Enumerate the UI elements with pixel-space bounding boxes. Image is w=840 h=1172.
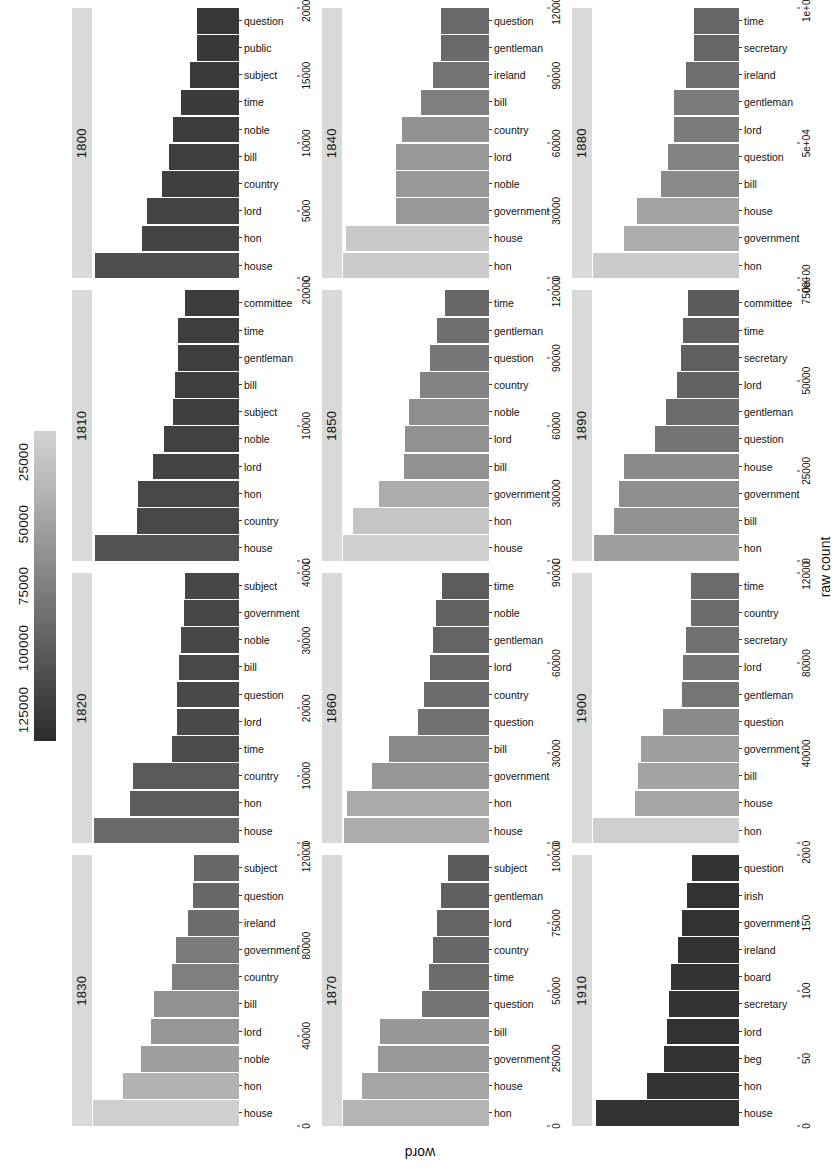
bar[interactable] (421, 90, 489, 116)
bar[interactable] (178, 318, 239, 344)
bar[interactable] (674, 117, 739, 143)
bar[interactable] (594, 535, 739, 561)
bar[interactable] (433, 627, 489, 653)
bar[interactable] (173, 399, 239, 425)
bar[interactable] (197, 35, 239, 61)
bar[interactable] (153, 454, 239, 480)
bar[interactable] (668, 144, 739, 170)
bar[interactable] (687, 883, 739, 909)
bar[interactable] (184, 600, 239, 626)
bar[interactable] (379, 481, 489, 507)
bar[interactable] (404, 454, 489, 480)
bar[interactable] (378, 1046, 489, 1072)
bar[interactable] (593, 253, 739, 279)
bar[interactable] (638, 763, 739, 789)
bar[interactable] (172, 736, 239, 762)
bar[interactable] (141, 1046, 239, 1072)
bar[interactable] (193, 883, 239, 909)
bar[interactable] (190, 62, 239, 88)
bar[interactable] (396, 198, 489, 224)
bar[interactable] (396, 171, 489, 197)
bar[interactable] (429, 964, 489, 990)
bar[interactable] (362, 1073, 489, 1099)
bar[interactable] (641, 736, 739, 762)
bar[interactable] (686, 62, 739, 88)
bar[interactable] (142, 226, 239, 252)
bar[interactable] (95, 535, 239, 561)
bar[interactable] (347, 791, 489, 817)
bar[interactable] (173, 117, 239, 143)
bar[interactable] (172, 964, 239, 990)
bar[interactable] (343, 1100, 489, 1126)
bar[interactable] (441, 8, 489, 34)
bar[interactable] (635, 791, 740, 817)
bar[interactable] (396, 144, 489, 170)
bar[interactable] (664, 1046, 739, 1072)
bar[interactable] (123, 1073, 239, 1099)
bar[interactable] (389, 736, 489, 762)
bar[interactable] (691, 600, 739, 626)
bar[interactable] (666, 399, 740, 425)
bar[interactable] (691, 573, 739, 599)
bar[interactable] (175, 372, 239, 398)
bar[interactable] (682, 910, 739, 936)
bar[interactable] (343, 535, 489, 561)
bar[interactable] (178, 345, 239, 371)
bar[interactable] (346, 226, 489, 252)
bar[interactable] (433, 62, 489, 88)
bar[interactable] (176, 937, 239, 963)
bar[interactable] (682, 682, 739, 708)
bar[interactable] (437, 910, 489, 936)
bar[interactable] (667, 1019, 739, 1045)
bar[interactable] (181, 90, 239, 116)
bar[interactable] (437, 318, 489, 344)
bar[interactable] (164, 426, 239, 452)
bar[interactable] (177, 709, 239, 735)
bar[interactable] (353, 508, 489, 534)
bar[interactable] (663, 709, 739, 735)
bar[interactable] (151, 1019, 239, 1045)
bar[interactable] (674, 90, 739, 116)
bar[interactable] (448, 855, 489, 881)
bar[interactable] (181, 627, 239, 653)
bar[interactable] (647, 1073, 739, 1099)
bar[interactable] (93, 1100, 239, 1126)
bar[interactable] (137, 508, 239, 534)
bar[interactable] (430, 655, 489, 681)
bar[interactable] (694, 35, 739, 61)
bar[interactable] (683, 655, 739, 681)
bar[interactable] (637, 198, 739, 224)
bar[interactable] (441, 35, 489, 61)
bar[interactable] (402, 117, 489, 143)
bar[interactable] (409, 399, 489, 425)
bar[interactable] (436, 600, 489, 626)
bar[interactable] (133, 763, 239, 789)
bar[interactable] (678, 937, 739, 963)
bar[interactable] (197, 8, 239, 34)
bar[interactable] (669, 991, 739, 1017)
bar[interactable] (681, 345, 739, 371)
bar[interactable] (596, 1100, 739, 1126)
bar[interactable] (380, 1019, 489, 1045)
bar[interactable] (624, 226, 739, 252)
bar[interactable] (405, 426, 489, 452)
bar[interactable] (619, 481, 739, 507)
bar[interactable] (677, 372, 739, 398)
bar[interactable] (95, 253, 239, 279)
bar[interactable] (624, 454, 739, 480)
bar[interactable] (441, 883, 489, 909)
bar[interactable] (424, 682, 489, 708)
bar[interactable] (671, 964, 739, 990)
bar[interactable] (433, 937, 489, 963)
bar[interactable] (692, 855, 739, 881)
bar[interactable] (686, 627, 739, 653)
bar[interactable] (194, 855, 239, 881)
bar[interactable] (147, 198, 239, 224)
bar[interactable] (418, 709, 489, 735)
bar[interactable] (683, 318, 739, 344)
bar[interactable] (179, 655, 239, 681)
bar[interactable] (614, 508, 739, 534)
bar[interactable] (185, 290, 239, 316)
bar[interactable] (593, 818, 739, 844)
bar[interactable] (655, 426, 739, 452)
